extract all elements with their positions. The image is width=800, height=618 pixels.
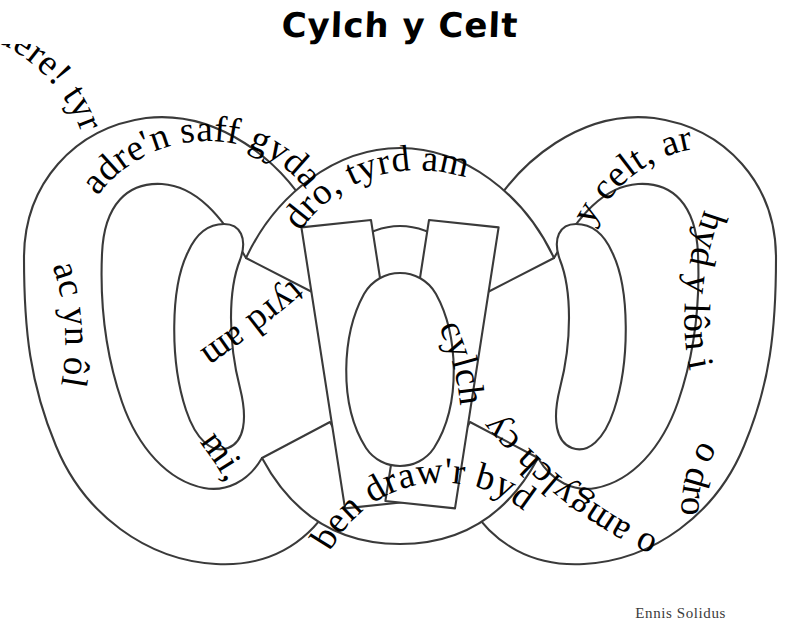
band-centre-void — [346, 273, 454, 466]
knot-svg: dro, tyrd am y celt, ar hyd y lôn i o dr… — [0, 44, 800, 589]
band-inner-right-eye — [556, 224, 626, 449]
artist-signature: Ennis Solidus — [635, 605, 726, 618]
artwork-page: Cylch y Celt — [0, 0, 800, 618]
celtic-knot-illustration: dro, tyrd am y celt, ar hyd y lôn i o dr… — [0, 44, 800, 589]
page-title: Cylch y Celt — [0, 0, 800, 50]
